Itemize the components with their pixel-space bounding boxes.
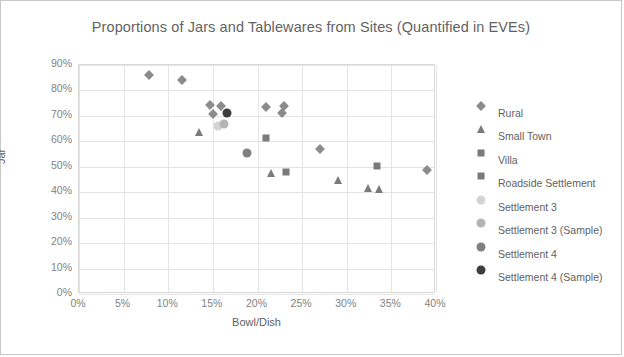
diamond-marker-icon — [481, 106, 495, 120]
gridline-horizontal — [79, 141, 434, 142]
data-point — [315, 145, 325, 155]
chart-container: Proportions of Jars and Tablewares from … — [0, 0, 622, 355]
data-point — [144, 70, 154, 80]
gridline-horizontal — [79, 192, 434, 193]
x-axis-tick: 20% — [235, 297, 279, 309]
legend-item-label: Villa — [498, 154, 518, 166]
x-axis-tick: 10% — [145, 297, 189, 309]
legend-item-label: Settlement 4 — [498, 248, 557, 260]
y-axis-tick: 50% — [36, 159, 72, 171]
gridline-vertical — [79, 65, 80, 292]
y-axis-tick: 80% — [36, 82, 72, 94]
gridline-vertical — [302, 65, 303, 292]
gridline-vertical — [347, 65, 348, 292]
x-axis-tick: 15% — [190, 297, 234, 309]
plot-area — [78, 64, 435, 293]
legend-item-label: Small Town — [498, 130, 552, 142]
data-point — [279, 101, 289, 111]
gridline-horizontal — [79, 90, 434, 91]
y-axis-tick: 40% — [36, 184, 72, 196]
circle-marker-icon — [481, 270, 495, 284]
data-point — [219, 119, 228, 128]
y-axis-tick: 70% — [36, 108, 72, 120]
x-axis-tick: 0% — [56, 297, 100, 309]
gridline-vertical — [436, 65, 437, 292]
y-axis-label: Jar — [0, 149, 7, 164]
circle-marker-icon — [481, 200, 495, 214]
gridline-vertical — [258, 65, 259, 292]
gridline-vertical — [391, 65, 392, 292]
gridline-horizontal — [79, 243, 434, 244]
data-point — [283, 169, 290, 176]
data-point — [216, 101, 226, 111]
legend-item-label: Roadside Settlement — [498, 177, 595, 189]
square-marker-icon — [481, 153, 495, 167]
gridline-horizontal — [79, 218, 434, 219]
x-axis-tick: 5% — [101, 297, 145, 309]
legend-item-label: Settlement 4 (Sample) — [498, 271, 602, 283]
x-axis-tick: 40% — [413, 297, 457, 309]
legend-item-roadside-settlement[interactable]: Roadside Settlement — [481, 172, 621, 196]
legend-item-label: Settlement 3 — [498, 201, 557, 213]
y-axis-tick: 30% — [36, 210, 72, 222]
data-point — [364, 184, 372, 192]
legend-item-label: Settlement 3 (Sample) — [498, 224, 602, 236]
data-point — [214, 121, 223, 130]
data-point — [177, 75, 187, 85]
gridline-vertical — [168, 65, 169, 292]
x-axis-label: Bowl/Dish — [78, 316, 435, 328]
gridline-horizontal — [79, 167, 434, 168]
legend-item-villa[interactable]: Villa — [481, 148, 621, 172]
legend-item-settlement-4[interactable]: Settlement 4 — [481, 242, 621, 266]
triangle-marker-icon — [481, 129, 495, 143]
legend-item-label: Rural — [498, 107, 523, 119]
chart-legend: RuralSmall TownVillaRoadside SettlementS… — [481, 101, 621, 289]
y-axis-tick: 60% — [36, 133, 72, 145]
legend-item-small-town[interactable]: Small Town — [481, 125, 621, 149]
circle-marker-icon — [481, 247, 495, 261]
legend-item-rural[interactable]: Rural — [481, 101, 621, 125]
y-axis-tick: 20% — [36, 235, 72, 247]
data-point — [334, 176, 342, 184]
y-axis-tick: 90% — [36, 57, 72, 69]
chart-title: Proportions of Jars and Tablewares from … — [1, 19, 621, 35]
data-point — [261, 102, 271, 112]
data-point — [195, 128, 203, 136]
x-axis-tick: 30% — [324, 297, 368, 309]
gridline-horizontal — [79, 269, 434, 270]
square-marker-icon — [481, 176, 495, 190]
legend-item-settlement-3-sample[interactable]: Settlement 3 (Sample) — [481, 219, 621, 243]
gridline-vertical — [124, 65, 125, 292]
y-axis-tick: 10% — [36, 261, 72, 273]
x-axis-tick: 35% — [368, 297, 412, 309]
gridline-horizontal — [79, 294, 434, 295]
data-point — [242, 149, 251, 158]
data-point — [267, 169, 275, 177]
circle-marker-icon — [481, 223, 495, 237]
legend-item-settlement-4-sample[interactable]: Settlement 4 (Sample) — [481, 266, 621, 290]
gridline-horizontal — [79, 65, 434, 66]
x-axis-tick: 25% — [279, 297, 323, 309]
legend-item-settlement-3[interactable]: Settlement 3 — [481, 195, 621, 219]
gridline-vertical — [213, 65, 214, 292]
gridline-horizontal — [79, 116, 434, 117]
